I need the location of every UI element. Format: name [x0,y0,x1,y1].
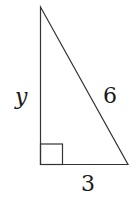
label-hypotenuse: 6 [103,83,117,108]
label-vertical-leg: y [14,84,28,109]
label-horizontal-leg: 3 [81,171,95,196]
right-angle-marker [41,144,63,165]
triangle-diagram: y 6 3 [0,0,140,198]
